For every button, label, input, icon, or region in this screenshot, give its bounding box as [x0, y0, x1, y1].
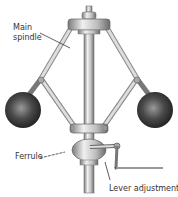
ferrule: [72, 139, 106, 165]
lever-adjustment-label: Lever adjustment: [109, 184, 178, 194]
ferrule-label: Ferrule: [15, 152, 43, 162]
left-flyball: [5, 92, 41, 128]
top-collar: [68, 6, 110, 34]
main-spindle: [84, 28, 94, 193]
lever-pointer: [105, 162, 110, 180]
governor-diagram: Main spindle Ferrule Lever adjustment: [0, 0, 178, 197]
main-spindle-label-line1: Main: [13, 23, 32, 33]
sliding-sleeve: [70, 124, 108, 133]
main-spindle-label-line2: spindle: [13, 33, 42, 43]
right-flyball: [137, 92, 173, 128]
ferrule-pointer: [40, 152, 65, 158]
